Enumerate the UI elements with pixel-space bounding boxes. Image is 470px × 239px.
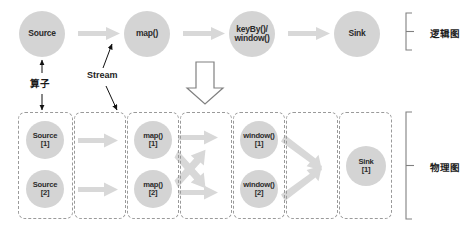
diagram-canvas: Source map() keyBy()/ window() Sink 算子 S… (0, 0, 470, 239)
phys-stage-box-source-to-map-stream (74, 112, 126, 219)
phys-node-window-2[interactable]: window() [2] (240, 170, 278, 208)
logical-arrow-source-to-map (78, 27, 120, 40)
phys-node-source-1-line-2: [1] (41, 140, 50, 148)
operator-label: 算子 (30, 76, 50, 90)
physical-graph-bracket (406, 112, 414, 219)
logical-arrow-keyby-to-sink (288, 27, 330, 40)
phys-node-source-2-line-2: [2] (41, 189, 50, 197)
logical-graph-bracket (406, 13, 414, 50)
logical-node-keyby-window-line-2: window() (234, 34, 269, 43)
phys-stage-box-map-to-window-stream (180, 112, 232, 219)
stream-label: Stream (87, 70, 118, 80)
logical-node-source[interactable]: Source (19, 11, 65, 57)
logical-arrow-map-to-keyby (183, 27, 225, 40)
logical-node-sink-line-1: Sink (348, 29, 365, 38)
phys-node-map-1-line-2: [1] (149, 140, 158, 148)
logical-node-sink[interactable]: Sink (334, 11, 380, 57)
phys-node-sink-1[interactable]: Sink [1] (346, 146, 386, 186)
phys-node-map-2[interactable]: map() [2] (134, 170, 172, 208)
phys-node-sink-1-line-2: [1] (362, 166, 371, 174)
logical-graph-label: 逻辑图 (430, 26, 460, 40)
phys-node-map-2-line-2: [2] (149, 189, 158, 197)
phys-node-map-1[interactable]: map() [1] (134, 121, 172, 159)
phys-node-window-2-line-2: [2] (255, 189, 264, 197)
logical-node-map[interactable]: map() (124, 11, 170, 57)
physical-graph-label: 物理图 (430, 160, 460, 174)
logical-node-source-line-1: Source (28, 29, 56, 38)
phys-node-source-2[interactable]: Source [2] (26, 170, 64, 208)
phys-node-window-1-line-2: [1] (255, 140, 264, 148)
transform-down-arrow-icon (187, 62, 223, 104)
phys-node-window-1[interactable]: window() [1] (240, 121, 278, 159)
logical-node-keyby-window[interactable]: keyBy()/ window() (229, 11, 275, 57)
logical-node-map-line-1: map() (136, 29, 158, 38)
phys-stage-box-window-to-sink-stream (286, 112, 338, 219)
phys-node-source-1[interactable]: Source [1] (26, 121, 64, 159)
